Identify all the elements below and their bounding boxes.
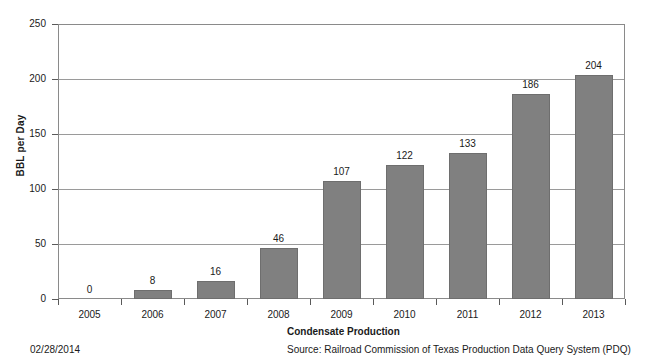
x-tick-label: 2013 (582, 309, 604, 320)
bar-group: 107 (310, 24, 373, 299)
bar-group: 16 (184, 24, 247, 299)
y-tick-label: 50 (0, 239, 46, 249)
bar-group: 0 (58, 24, 121, 299)
bar (323, 181, 361, 299)
bars-layer: 081646107122133186204 (58, 24, 625, 299)
bar-value-label: 122 (396, 151, 413, 161)
bar-group: 204 (562, 24, 625, 299)
x-tick-mark (373, 299, 374, 305)
bar-value-label: 204 (585, 61, 602, 71)
x-tick-mark (499, 299, 500, 305)
x-axis: 200520062007200820092010201120122013 (58, 299, 625, 329)
bar-value-label: 107 (333, 167, 350, 177)
bar-group: 133 (436, 24, 499, 299)
x-tick-mark (562, 299, 563, 305)
x-tick-mark (310, 299, 311, 305)
bar-group: 186 (499, 24, 562, 299)
bar-value-label: 46 (273, 234, 284, 244)
bar (197, 281, 235, 299)
x-tick-label: 2009 (330, 309, 352, 320)
bar (386, 165, 424, 299)
x-tick-label: 2010 (393, 309, 415, 320)
x-tick-mark (58, 299, 59, 305)
x-tick-label: 2008 (267, 309, 289, 320)
y-tick-label: 150 (0, 129, 46, 139)
x-tick-label: 2007 (204, 309, 226, 320)
x-tick-mark (121, 299, 122, 305)
bar (575, 75, 613, 299)
chart-caption: Condensate Production (287, 326, 400, 337)
x-tick-mark (625, 299, 626, 305)
x-tick-mark (247, 299, 248, 305)
x-tick-label: 2006 (141, 309, 163, 320)
bar-group: 46 (247, 24, 310, 299)
bar-chart: BBL per Day 050100150200250 081646107122… (0, 0, 645, 364)
bar (134, 290, 172, 299)
source-note: Source: Railroad Commission of Texas Pro… (287, 344, 631, 355)
bar-value-label: 186 (522, 80, 539, 90)
y-tick-label: 0 (0, 294, 46, 304)
y-tick-label: 250 (0, 19, 46, 29)
bar (260, 248, 298, 299)
bar-value-label: 16 (210, 267, 221, 277)
y-tick-label: 200 (0, 74, 46, 84)
x-tick-label: 2011 (457, 309, 479, 320)
date-stamp: 02/28/2014 (30, 344, 80, 355)
bar-value-label: 133 (459, 139, 476, 149)
bar (449, 153, 487, 299)
bar-group: 122 (373, 24, 436, 299)
bar-value-label: 0 (87, 285, 93, 295)
x-tick-mark (184, 299, 185, 305)
x-tick-label: 2012 (519, 309, 541, 320)
bar-group: 8 (121, 24, 184, 299)
bar-value-label: 8 (150, 276, 156, 286)
bar (512, 94, 550, 299)
x-tick-label: 2005 (78, 309, 100, 320)
y-tick-label: 100 (0, 184, 46, 194)
x-tick-mark (436, 299, 437, 305)
